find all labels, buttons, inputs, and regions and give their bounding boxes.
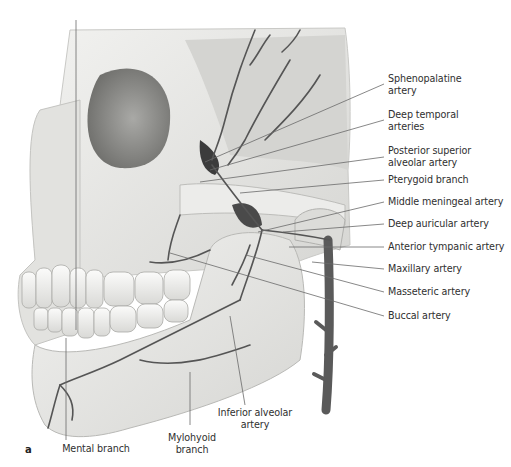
label-inferior-alveolar-artery: Inferior alveolar artery — [212, 407, 298, 430]
label-line: alveolar artery — [388, 157, 471, 169]
label-line: arteries — [388, 121, 459, 133]
label-line: artery — [212, 419, 298, 431]
orbit — [87, 68, 170, 168]
label-line: artery — [388, 85, 462, 97]
label-mental-branch: Mental branch — [56, 443, 136, 455]
label-deep-temporal-arteries: Deep temporal arteries — [388, 109, 459, 132]
label-line: Mylohyoid — [160, 432, 224, 444]
label-buccal-artery: Buccal artery — [388, 310, 451, 322]
external-carotid-artery — [326, 240, 329, 410]
label-line: Posterior superior — [388, 145, 471, 157]
label-middle-meningeal-artery: Middle meningeal artery — [388, 196, 503, 208]
panel-label: a — [25, 444, 32, 455]
anatomical-figure: Sphenopalatine artery Deep temporal arte… — [0, 0, 511, 467]
label-line: Deep temporal — [388, 109, 459, 121]
label-line: Sphenopalatine — [388, 73, 462, 85]
label-pterygoid-branch: Pterygoid branch — [388, 174, 469, 186]
label-mylohyoid-branch: Mylohyoid branch — [160, 432, 224, 455]
label-deep-auricular-artery: Deep auricular artery — [388, 218, 489, 230]
skull-illustration — [0, 0, 511, 467]
label-anterior-tympanic-artery: Anterior tympanic artery — [388, 241, 504, 253]
label-line: branch — [160, 444, 224, 456]
label-masseteric-artery: Masseteric artery — [388, 286, 470, 298]
label-sphenopalatine-artery: Sphenopalatine artery — [388, 73, 462, 96]
label-line: Inferior alveolar — [212, 407, 298, 419]
label-maxillary-artery: Maxillary artery — [388, 263, 462, 275]
label-posterior-superior-alveolar-artery: Posterior superior alveolar artery — [388, 145, 471, 168]
